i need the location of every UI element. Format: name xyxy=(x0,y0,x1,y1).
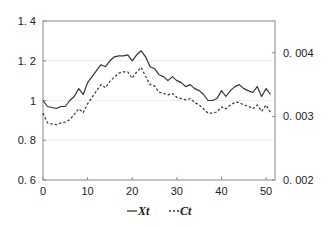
y2-tick-label: 0. 004 xyxy=(283,47,314,59)
x-tick-label: 50 xyxy=(260,185,272,197)
legend-label-ct: Ct xyxy=(180,204,192,218)
y-tick-label: 0. 8 xyxy=(18,134,36,146)
gridlines xyxy=(43,61,275,141)
legend-label-xt: Xt xyxy=(137,204,150,218)
series-lines xyxy=(43,51,271,125)
series-line-ct xyxy=(43,67,271,124)
y-tick-label: 1. 2 xyxy=(18,55,36,67)
x-tick-label: 40 xyxy=(215,185,227,197)
legend: Xt Ct xyxy=(127,204,192,218)
x-tick-label: 0 xyxy=(40,185,46,197)
x-tick-label: 20 xyxy=(126,185,138,197)
y2-tick-label: 0. 002 xyxy=(283,174,314,186)
series-line-xt xyxy=(43,51,271,109)
y-tick-label: 1. 4 xyxy=(18,15,36,27)
y-tick-label: 1 xyxy=(30,95,36,107)
y2-tick-label: 0. 003 xyxy=(283,110,314,122)
x-tick-label: 30 xyxy=(171,185,183,197)
y-axis-right: 0. 0020. 0030. 004 xyxy=(272,47,314,186)
chart: 01020304050 0. 60. 811. 21. 4 0. 0020. 0… xyxy=(0,0,331,227)
y-axis-left: 0. 60. 811. 21. 4 xyxy=(18,15,46,186)
y-tick-label: 0. 6 xyxy=(18,174,36,186)
x-tick-label: 10 xyxy=(81,185,93,197)
